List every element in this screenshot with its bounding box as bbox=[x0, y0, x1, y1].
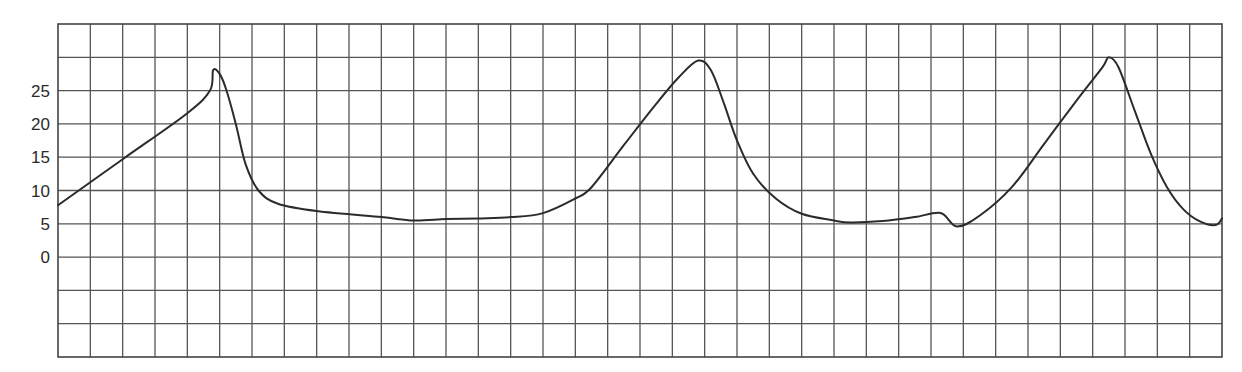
y-tick-label: 5 bbox=[41, 215, 50, 234]
y-tick-label: 25 bbox=[31, 82, 50, 101]
y-tick-label: 20 bbox=[31, 115, 50, 134]
line-chart: 2520151050 bbox=[0, 0, 1242, 372]
y-axis-tick-labels: 2520151050 bbox=[31, 82, 50, 268]
y-tick-label: 15 bbox=[31, 148, 50, 167]
y-tick-label: 10 bbox=[31, 182, 50, 201]
chart-grid bbox=[58, 24, 1222, 357]
y-tick-label: 0 bbox=[41, 248, 50, 267]
